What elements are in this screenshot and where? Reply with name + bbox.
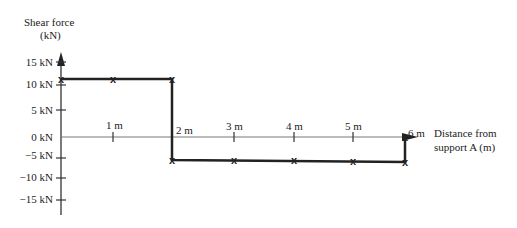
y-axis-arrow-icon xyxy=(57,52,65,66)
x-tick-6: 6 m xyxy=(408,127,425,139)
y-tick-neg15: −15 kN xyxy=(3,193,53,205)
svg-text:x: x xyxy=(231,154,238,166)
y-tick-neg5: −5 kN xyxy=(3,149,53,161)
svg-text:x: x xyxy=(58,73,65,85)
svg-text:x: x xyxy=(110,73,117,85)
y-tick-5: 5 kN xyxy=(3,104,53,116)
y-axis-label: Shear force xyxy=(24,16,74,28)
y-axis-unit: (kN) xyxy=(40,29,61,41)
svg-text:x: x xyxy=(169,154,176,166)
x-tick-3: 3 m xyxy=(226,120,243,132)
svg-text:x: x xyxy=(291,154,298,166)
x-axis-label: Distance from xyxy=(434,127,497,139)
y-tick-15: 15 kN xyxy=(3,56,53,68)
x-tick-1: 1 m xyxy=(106,119,123,131)
x-tick-4: 4 m xyxy=(286,120,303,132)
y-tick-neg10: −10 kN xyxy=(3,171,53,183)
y-tick-0: 0 kN xyxy=(3,131,53,143)
y-tick-10: 10 kN xyxy=(3,78,53,90)
shear-force-chart: xxx xxx xxx xyxy=(0,0,517,228)
x-axis-label-line2: support A (m) xyxy=(434,141,495,153)
x-tick-2: 2 m xyxy=(176,124,193,136)
x-tick-5: 5 m xyxy=(345,120,362,132)
svg-text:x: x xyxy=(350,155,357,167)
svg-text:x: x xyxy=(169,73,176,85)
svg-text:x: x xyxy=(402,156,409,168)
